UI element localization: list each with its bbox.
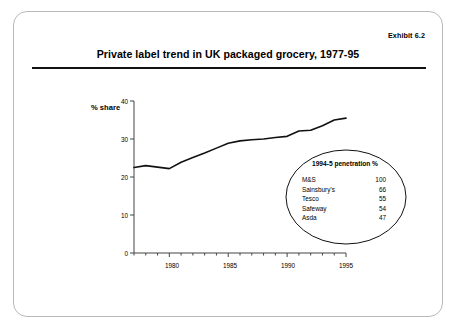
table-row: Safeway54	[302, 205, 386, 215]
exhibit-card: Exhibit 6.2 Private label trend in UK pa…	[13, 11, 443, 317]
retailer-penetration-value: 55	[360, 195, 386, 205]
retailer-name: Safeway	[302, 205, 360, 215]
y-axis-ticks	[130, 101, 134, 253]
x-axis-ticks	[134, 253, 346, 257]
retailer-penetration-value: 100	[360, 176, 386, 186]
table-row: Sainsbury's66	[302, 186, 386, 196]
retailer-name: Asda	[302, 214, 360, 224]
chart-plot-area: % share 40 30 20 10 0 1980 1985 1990 199…	[14, 12, 444, 318]
retailer-penetration-value: 47	[360, 214, 386, 224]
retailer-name: Tesco	[302, 195, 360, 205]
retailer-penetration-value: 54	[360, 205, 386, 215]
inset-heading: 1994-5 penetration %	[290, 160, 400, 167]
penetration-table: M&S100Sainsbury's66Tesco55Safeway54Asda4…	[302, 176, 386, 224]
table-row: Tesco55	[302, 195, 386, 205]
retailer-penetration-value: 66	[360, 186, 386, 196]
table-row: M&S100	[302, 176, 386, 186]
table-row: Asda47	[302, 214, 386, 224]
retailer-name: Sainsbury's	[302, 186, 360, 196]
retailer-name: M&S	[302, 176, 360, 186]
